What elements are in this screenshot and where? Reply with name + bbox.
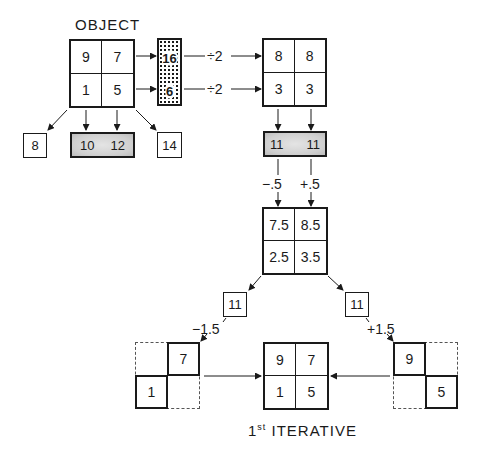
- column-projection-right: 11: [307, 137, 321, 152]
- row-avg-cell-br: 3: [295, 73, 326, 106]
- diag-sum-left-box: 8: [23, 133, 47, 158]
- column-sum-right: 12: [111, 138, 125, 153]
- row-op-bottom: ÷2: [207, 81, 222, 97]
- column-projection-box: 11 11: [263, 131, 327, 157]
- iterative-ordinal-suffix: st: [257, 422, 266, 432]
- corrected-grid: 7.5 8.5 2.5 3.5: [262, 207, 328, 275]
- iterative-label: ITERATIVE: [272, 422, 357, 439]
- row-sum-bottom: 6: [165, 84, 174, 99]
- column-sum-box: 10 12: [70, 132, 135, 158]
- object-cell-bl: 1: [71, 74, 102, 107]
- object-cell-br: 5: [102, 74, 133, 107]
- diag-correction-right: +1.5: [367, 321, 395, 337]
- diag-box-left: 11: [223, 292, 247, 317]
- object-title: OBJECT: [75, 16, 140, 33]
- row-avg-cell-bl: 3: [264, 73, 295, 106]
- result-cell-bl: 1: [265, 376, 296, 408]
- diag-correction-left: −1.5: [192, 321, 220, 337]
- row-sum-column: 16 6: [157, 38, 182, 106]
- object-grid: 9 7 1 5: [69, 39, 135, 108]
- result-cell-br: 5: [296, 376, 327, 408]
- left-partial-cell-bl: 1: [135, 375, 168, 409]
- corrected-cell-tr: 8.5: [295, 209, 326, 241]
- right-partial-cell-tl: 9: [393, 342, 426, 376]
- row-average-grid: 8 8 3 3: [262, 38, 327, 107]
- row-avg-cell-tl: 8: [264, 40, 295, 73]
- iterative-ordinal: 1: [248, 422, 257, 439]
- column-projection-left: 11: [270, 137, 284, 152]
- result-cell-tl: 9: [265, 344, 296, 376]
- row-sum-top: 16: [161, 51, 177, 66]
- iterative-title: 1st ITERATIVE: [248, 422, 357, 439]
- column-correction-right: +.5: [300, 176, 320, 192]
- object-cell-tl: 9: [71, 41, 102, 74]
- corrected-cell-tl: 7.5: [264, 209, 295, 241]
- row-avg-cell-tr: 8: [295, 40, 326, 73]
- left-partial-cell-tr: 7: [167, 342, 200, 376]
- row-op-top: ÷2: [207, 48, 222, 64]
- column-sum-left: 10: [80, 138, 94, 153]
- right-partial-cell-br: 5: [425, 375, 458, 409]
- result-grid: 9 7 1 5: [263, 342, 329, 410]
- corrected-cell-br: 3.5: [295, 241, 326, 273]
- diag-sum-right-box: 14: [157, 132, 182, 158]
- diag-box-right: 11: [345, 292, 369, 317]
- result-cell-tr: 7: [296, 344, 327, 376]
- corrected-cell-bl: 2.5: [264, 241, 295, 273]
- object-cell-tr: 7: [102, 41, 133, 74]
- column-correction-left: −.5: [262, 176, 282, 192]
